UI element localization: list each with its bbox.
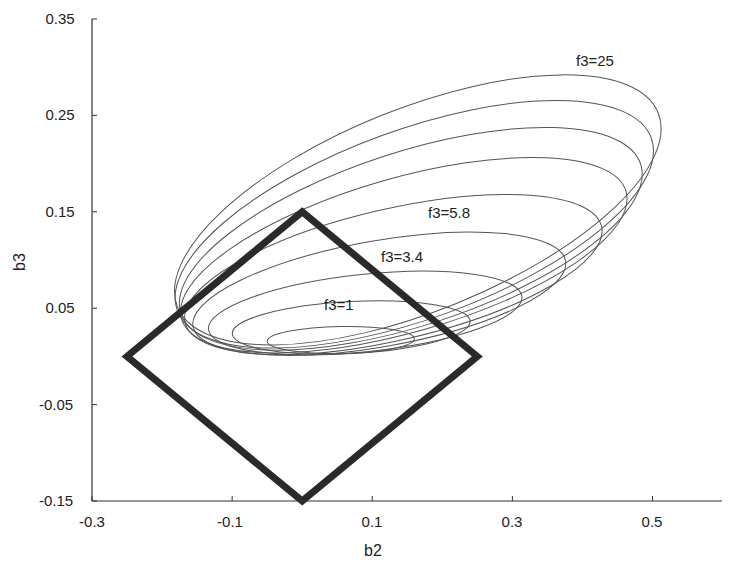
contour-label-f3-5.8: f3=5.8 — [428, 204, 470, 221]
y-tick-label: 0.35 — [45, 10, 74, 27]
x-tick-label: 0.3 — [502, 513, 523, 530]
contour-label-f3-1: f3=1 — [324, 296, 354, 313]
contour-label-f3-25: f3=25 — [576, 52, 614, 69]
y-tick-label: 0.15 — [45, 203, 74, 220]
x-tick-label: 0.5 — [642, 513, 663, 530]
y-tick-label: -0.05 — [39, 396, 73, 413]
y-tick-label: 0.05 — [45, 299, 74, 316]
contour-plot: 0.35 0.25 0.15 0.05 -0.05 -0.15 -0.3 -0.… — [0, 0, 739, 574]
axis-ticks — [92, 19, 653, 501]
contour-line — [154, 82, 667, 396]
x-tick-label: -0.1 — [217, 513, 243, 530]
x-tick-label: -0.3 — [79, 513, 105, 530]
contour-line — [170, 163, 616, 387]
x-tick-label: 0.1 — [362, 513, 383, 530]
contour-label-f3-3.4: f3=3.4 — [381, 248, 423, 265]
y-axis-label: b3 — [11, 253, 28, 271]
y-tick-label: 0.25 — [45, 106, 74, 123]
contour-lines — [140, 19, 696, 401]
contour-line — [184, 209, 575, 379]
x-axis-label: b2 — [364, 542, 382, 559]
constraint-diamond — [127, 212, 477, 501]
y-tick-label: -0.15 — [39, 492, 73, 509]
